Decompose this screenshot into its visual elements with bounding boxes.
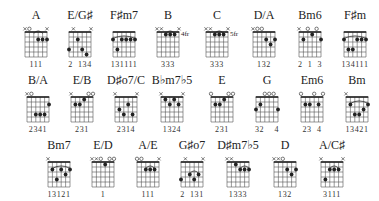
chord-fingering: 23 4 bbox=[290, 125, 334, 134]
chord-name: B/A bbox=[16, 73, 60, 87]
chord-fretboard bbox=[37, 152, 81, 192]
chord-fingering: 111 bbox=[14, 60, 58, 69]
chord-fretboard bbox=[263, 152, 307, 192]
chord-name: E/D bbox=[81, 138, 125, 152]
chord-fretboard bbox=[290, 87, 334, 127]
chord-fretboard bbox=[288, 22, 332, 62]
chord-name: Bm6 bbox=[288, 8, 332, 22]
chord-name: B♭m7♭5 bbox=[150, 73, 194, 87]
chord-name: Em6 bbox=[290, 73, 334, 87]
chord-fingering: 2314 bbox=[104, 125, 148, 134]
svg-text:4fr: 4fr bbox=[181, 30, 190, 38]
chord-fingering: 2341 bbox=[16, 125, 60, 134]
chord-name: A/C♯ bbox=[310, 138, 354, 152]
chord-fingering: 32 4 bbox=[245, 125, 289, 134]
chord-fretboard: 4fr bbox=[146, 22, 190, 62]
chord-name: Bm bbox=[335, 73, 379, 87]
chord-fingering: 333 bbox=[146, 60, 190, 69]
chord-fretboard bbox=[245, 87, 289, 127]
svg-text:5fr: 5fr bbox=[230, 30, 239, 38]
chord-name: D/A bbox=[242, 8, 286, 22]
chord-fingering: 13421 bbox=[335, 125, 379, 134]
chord-fretboard bbox=[333, 22, 377, 62]
chord-name: D bbox=[263, 138, 307, 152]
chord-fretboard bbox=[126, 152, 170, 192]
chord-fingering: 3111 bbox=[310, 190, 354, 199]
chord-fretboard bbox=[102, 22, 146, 62]
chord-name: A bbox=[14, 8, 58, 22]
chord-fingering: 134111 bbox=[333, 60, 377, 69]
chord-fingering: 2 134 bbox=[58, 60, 102, 69]
chord-fingering: 132 bbox=[263, 190, 307, 199]
chord-name: F♯m7 bbox=[102, 8, 146, 22]
chord-name: D♯o7/C bbox=[104, 73, 148, 87]
chord-fingering: 2 1 3 bbox=[288, 60, 332, 69]
chord-fretboard bbox=[14, 22, 58, 62]
chord-fretboard bbox=[335, 87, 379, 127]
chord-fretboard bbox=[16, 87, 60, 127]
chord-fretboard bbox=[170, 152, 214, 192]
chord-fingering: 333 bbox=[195, 60, 239, 69]
chord-fingering: 1 bbox=[81, 190, 125, 199]
chord-fingering: 2 131 bbox=[170, 190, 214, 199]
chord-name: E/G♯ bbox=[58, 8, 102, 22]
chord-fingering: 131111 bbox=[102, 60, 146, 69]
chord-fingering: 231 bbox=[60, 125, 104, 134]
chord-name: G bbox=[245, 73, 289, 87]
chord-fingering: 1333 bbox=[216, 190, 260, 199]
chord-name: Bm7 bbox=[37, 138, 81, 152]
chord-fretboard bbox=[216, 152, 260, 192]
chord-fingering: 111 bbox=[126, 190, 170, 199]
chord-fretboard bbox=[104, 87, 148, 127]
chord-fretboard bbox=[242, 22, 286, 62]
chord-fingering: 1324 bbox=[150, 125, 194, 134]
chord-name: E bbox=[200, 73, 244, 87]
chord-fretboard bbox=[150, 87, 194, 127]
chord-name: G♯o7 bbox=[170, 138, 214, 152]
chord-fretboard bbox=[81, 152, 125, 192]
chord-fretboard bbox=[60, 87, 104, 127]
chord-name: B bbox=[146, 8, 190, 22]
chord-name: D♯m7♭5 bbox=[216, 138, 260, 152]
chord-name: A/E bbox=[126, 138, 170, 152]
chord-fingering: 231 bbox=[200, 125, 244, 134]
chord-fretboard bbox=[200, 87, 244, 127]
chord-fretboard: 5fr bbox=[195, 22, 239, 62]
chord-name: E/B bbox=[60, 73, 104, 87]
chord-name: C bbox=[195, 8, 239, 22]
chord-fretboard bbox=[58, 22, 102, 62]
chord-fingering: 132 bbox=[242, 60, 286, 69]
chord-fretboard bbox=[310, 152, 354, 192]
chord-name: F♯m bbox=[333, 8, 377, 22]
chord-fingering: 13121 bbox=[37, 190, 81, 199]
